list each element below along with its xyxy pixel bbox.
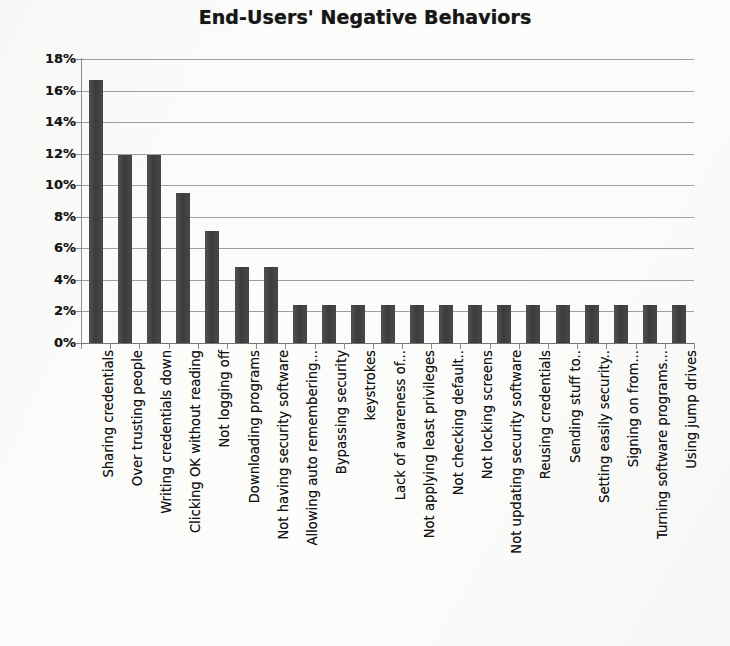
x-axis-tick-mark — [431, 343, 432, 349]
bar[interactable] — [293, 305, 307, 343]
gridline — [81, 122, 694, 123]
y-axis-tick-label: 18% — [30, 51, 76, 66]
x-axis-tick-mark — [198, 343, 199, 349]
bar[interactable] — [89, 80, 103, 343]
scan-artifact: . . . . . — [60, 590, 115, 605]
bar[interactable] — [526, 305, 540, 343]
bar[interactable] — [147, 155, 161, 343]
y-axis-tick-label: 10% — [30, 177, 76, 192]
y-axis-tick-mark — [76, 185, 82, 186]
x-axis-category-label-text: Reusing credentials — [538, 350, 553, 479]
x-axis-tick-mark — [256, 343, 257, 349]
scan-artifact: . . . . . . . . . . — [230, 38, 347, 53]
x-axis-tick-mark — [315, 343, 316, 349]
x-axis-tick-mark — [548, 343, 549, 349]
x-axis-tick-mark — [606, 343, 607, 349]
y-axis-tick-label: 2% — [30, 303, 76, 318]
x-axis-category-label-text: Clicking OK without reading — [188, 350, 203, 533]
plot-area — [81, 59, 694, 343]
y-axis-tick-mark — [76, 59, 82, 60]
bar[interactable] — [322, 305, 336, 343]
x-axis-tick-mark — [344, 343, 345, 349]
x-axis-category-label-text: Not applying least privileges — [422, 350, 437, 538]
x-axis-tick-mark — [139, 343, 140, 349]
x-axis-tick-mark — [373, 343, 374, 349]
x-axis-category-label-text: Not logging off — [217, 350, 232, 448]
chart-title: End-Users' Negative Behaviors — [0, 6, 730, 28]
y-axis-tick-mark — [76, 311, 82, 312]
x-axis-category-label-text: Not locking screens — [480, 350, 495, 479]
y-axis-tick-mark — [76, 91, 82, 92]
y-axis-tick-mark — [76, 154, 82, 155]
x-axis-tick-mark — [636, 343, 637, 349]
bar[interactable] — [643, 305, 657, 343]
x-axis-tick-mark — [577, 343, 578, 349]
y-axis-tick-mark — [76, 280, 82, 281]
bar[interactable] — [176, 193, 190, 343]
x-axis-tick-mark — [169, 343, 170, 349]
x-axis-category-label-text: Signing on from... — [626, 350, 641, 467]
x-axis-category-label-text: Not checking default.. — [451, 350, 466, 495]
x-axis-category-label-text: Setting easily security.. — [597, 350, 612, 503]
x-axis-category-label-text: Allowing auto remembering... — [305, 350, 320, 546]
bar[interactable] — [410, 305, 424, 343]
y-axis-tick-mark — [76, 248, 82, 249]
x-axis-tick-mark — [81, 343, 82, 349]
y-axis-tick-label: 0% — [30, 335, 76, 350]
x-axis-tick-mark — [665, 343, 666, 349]
gridline — [81, 280, 694, 281]
x-axis-category-label-text: Sending stuff to.. — [568, 350, 583, 463]
gridline — [81, 59, 694, 60]
x-axis-category-label-text: Not having security software — [276, 350, 291, 540]
x-axis-category-label-text: Not updating security software — [509, 350, 524, 554]
y-axis-tick-label: 8% — [30, 209, 76, 224]
y-axis-tick-label: 4% — [30, 272, 76, 287]
gridline — [81, 248, 694, 249]
y-axis-tick-label: 12% — [30, 146, 76, 161]
x-axis-tick-mark — [460, 343, 461, 349]
bar[interactable] — [118, 155, 132, 343]
bar[interactable] — [235, 267, 249, 343]
chart-page: End-Users' Negative Behaviors 18%16%14%1… — [0, 0, 730, 646]
bar[interactable] — [381, 305, 395, 343]
x-axis-tick-mark — [227, 343, 228, 349]
gridline — [81, 154, 694, 155]
x-axis-tick-mark — [694, 343, 695, 349]
bar[interactable] — [672, 305, 686, 343]
bar[interactable] — [468, 305, 482, 343]
x-axis-tick-mark — [490, 343, 491, 349]
bar[interactable] — [264, 267, 278, 343]
gridline — [81, 217, 694, 218]
x-axis-tick-mark — [402, 343, 403, 349]
x-axis-category-label-text: Lack of awareness of... — [393, 350, 408, 500]
x-axis-tick-mark — [285, 343, 286, 349]
x-axis-category-label-text: Sharing credentials — [101, 350, 116, 478]
y-axis-tick-mark — [76, 217, 82, 218]
gridline — [81, 91, 694, 92]
y-axis-tick-mark — [76, 122, 82, 123]
bar[interactable] — [556, 305, 570, 343]
x-axis-tick-mark — [519, 343, 520, 349]
x-axis-category-label-text: Downloading programs — [247, 350, 262, 503]
gridline — [81, 185, 694, 186]
x-axis-category-label-text: Turning software programs... — [655, 350, 670, 539]
gridline — [81, 343, 694, 344]
x-axis-category-label-text: Bypassing security — [334, 350, 349, 474]
bar[interactable] — [439, 305, 453, 343]
bar[interactable] — [497, 305, 511, 343]
bar[interactable] — [205, 231, 219, 343]
x-axis-category-label-text: Using jump drives — [684, 350, 699, 469]
x-axis-category-label-text: keystrokes — [363, 350, 378, 420]
y-axis-tick-label: 6% — [30, 240, 76, 255]
y-axis-tick-label: 16% — [30, 83, 76, 98]
x-axis-tick-mark — [110, 343, 111, 349]
y-axis: 18%16%14%12%10%8%6%4%2%0% — [20, 59, 76, 343]
y-axis-tick-label: 14% — [30, 114, 76, 129]
x-axis-category-label-text: Writing credentials down — [159, 350, 174, 514]
bar[interactable] — [585, 305, 599, 343]
bar[interactable] — [614, 305, 628, 343]
x-axis-category-label-text: Over trusting people — [130, 350, 145, 486]
bar[interactable] — [351, 305, 365, 343]
